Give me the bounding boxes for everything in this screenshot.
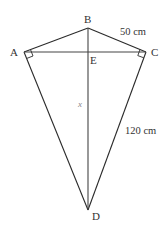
kite-diagram: B A C E D 50 cm 120 cm x: [0, 0, 168, 228]
label-c: C: [151, 46, 158, 58]
label-a: A: [10, 46, 18, 58]
measure-cd: 120 cm: [125, 125, 156, 136]
label-e: E: [90, 54, 97, 66]
edge-ad: [24, 52, 88, 210]
variable-x: x: [77, 99, 82, 109]
label-d: D: [92, 210, 100, 222]
edge-ab: [24, 28, 88, 52]
measure-bc: 50 cm: [120, 26, 146, 37]
label-b: B: [84, 13, 91, 25]
